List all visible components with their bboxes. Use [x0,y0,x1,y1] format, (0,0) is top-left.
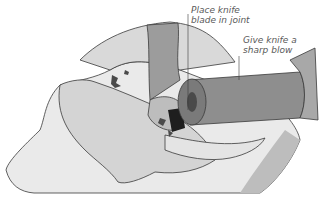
annotation-sharp-blow: Give knife a sharp blow [243,35,297,55]
annotation-line: Place knife [191,5,250,15]
mallet-end-center [187,92,197,112]
chicken-cutting-illustration [0,0,320,198]
annotation-line: blade in joint [191,15,250,25]
annotation-line: Give knife a [243,35,297,45]
annotation-line: sharp blow [243,45,297,55]
annotation-place-knife: Place knife blade in joint [191,5,250,25]
